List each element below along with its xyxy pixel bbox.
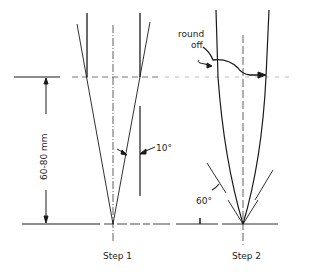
step2-label: Step 2 [232,251,261,261]
step1-angle-label: 10° [156,143,172,153]
step1-figure [77,13,155,242]
step2-angle-label: 60° [196,196,212,206]
step1-label: Step 1 [103,251,132,261]
dimension-label: 60-80 mm [39,133,49,180]
round-off-arrow [203,47,262,75]
round-off-label-line1: round [178,29,204,39]
round-off-label-line2: off [191,40,203,50]
step2-figure [198,10,273,245]
